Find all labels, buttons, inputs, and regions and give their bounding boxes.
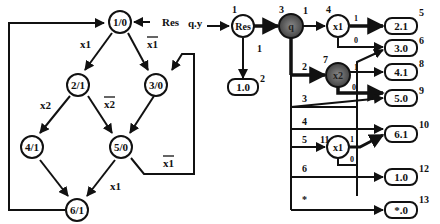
dd-node-x2-label: x2: [333, 70, 343, 81]
dd-edge-q-1: 1: [303, 5, 308, 16]
dd-edge-x2-0: 0: [352, 83, 356, 92]
dd-edge-q-3: 3: [302, 93, 307, 104]
dd-num-1: 1: [232, 4, 237, 15]
dd-edge-x1b-0: 0: [350, 155, 354, 164]
state-node-4-label: 4/1: [25, 141, 39, 153]
edge-label-5-3: x1: [163, 157, 174, 169]
state-nodes: [21, 11, 167, 221]
state-node-6-label: 6/1: [70, 204, 84, 216]
edge-5-3: [131, 54, 194, 174]
dd-edge-q-2: 2: [302, 61, 307, 72]
dd-num-12: 12: [419, 163, 429, 174]
state-node-5-label: 5/0: [114, 141, 129, 153]
dd-num-13: 13: [419, 194, 429, 205]
diagram-canvas: 1/0 2/1 3/0 4/1 5/0 6/1 Res x1 x1 x2 x2 …: [0, 0, 440, 224]
edge-label-5-6: x1: [110, 180, 121, 192]
dd-num-4: 4: [326, 4, 331, 15]
edge-label-1-2: x1: [80, 38, 91, 50]
dd-num-2: 2: [260, 73, 265, 84]
dd-leaf-8-label: 4.1: [394, 66, 408, 78]
dd-node-x1b-label: x1: [333, 142, 343, 153]
dd-leaf-6-label: 3.0: [394, 42, 408, 54]
dd-node-q-label: q: [288, 21, 294, 32]
dd-edge-x2-1: 1: [354, 63, 358, 72]
dd-num-11: 11: [320, 134, 329, 145]
state-graph: [9, 22, 194, 210]
dd-edge-q-star: *: [302, 194, 307, 205]
dd-num-10: 10: [419, 119, 429, 130]
qy-input-label: q.y: [188, 17, 203, 29]
dd-leaf-9-label: 5.0: [394, 92, 408, 104]
dd-edge-q-4: 4: [302, 116, 307, 127]
dd-edge-x1a-0: 0: [354, 36, 358, 45]
dd-node-res-label: Res: [235, 21, 251, 32]
dd-node-x1a-label: x1: [333, 21, 343, 32]
dd-leaf-10-label: 6.1: [394, 128, 408, 140]
edge-1-3: [128, 33, 148, 70]
dd-num-3: 3: [279, 4, 284, 15]
dd-edge-q-6: 6: [302, 163, 307, 174]
dd-edge-res-1: 1: [257, 43, 262, 54]
dd-num-8: 8: [419, 58, 424, 69]
dd-num-6: 6: [419, 35, 424, 46]
decision-edges: [207, 26, 383, 210]
dd-edge-q-5: 5: [302, 134, 307, 145]
dd-edge-x1b-1: 1: [350, 135, 354, 144]
state-node-1-label: 1/0: [113, 16, 128, 28]
dd-leaf-12-label: 1.0: [394, 171, 408, 183]
dd-leaf-13-label: *.0: [394, 204, 408, 216]
res-input-label: Res: [162, 16, 180, 28]
edge-label-1-3: x1: [147, 38, 158, 50]
edge-3-5: [130, 96, 154, 133]
dd-num-5: 5: [419, 7, 424, 18]
state-node-2-label: 2/1: [71, 79, 85, 91]
state-node-3-label: 3/0: [149, 79, 164, 91]
edge-label-2-5: x2: [104, 98, 116, 110]
dd-leaf-5-label: 2.1: [394, 20, 408, 32]
dd-num-9: 9: [419, 85, 424, 96]
dd-num-7: 7: [323, 54, 328, 65]
dd-edge-x1a-1: 1: [354, 14, 358, 23]
edge-4-6: [40, 160, 68, 196]
dd-leaf-2-label: 1.0: [236, 81, 250, 93]
edge-label-2-4: x2: [40, 99, 52, 111]
